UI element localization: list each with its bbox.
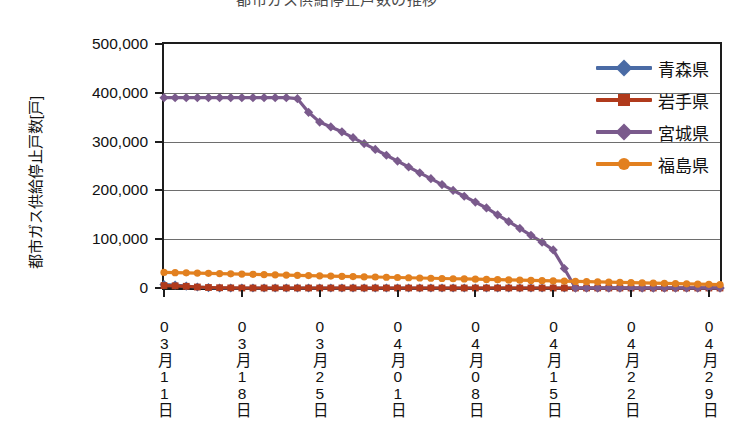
data-point-marker (483, 276, 490, 283)
data-point-marker (237, 93, 246, 102)
y-axis-labels: 0100,000200,000300,000400,000500,000 (0, 0, 162, 340)
gridline (164, 190, 720, 191)
data-point-marker (361, 273, 368, 280)
x-tick-label: 04月08日 (468, 318, 484, 418)
data-point-marker (516, 277, 523, 284)
data-point-marker (160, 269, 167, 276)
y-tick-mark (155, 92, 162, 94)
legend-item-青森県[interactable]: 青森県 (596, 52, 746, 84)
x-tick-mark (397, 290, 399, 297)
x-tick-label: 04月29日 (701, 318, 717, 418)
data-point-marker (283, 285, 290, 292)
data-point-marker (583, 278, 590, 285)
data-point-marker (259, 93, 268, 102)
x-tick-mark (630, 290, 632, 297)
data-point-marker (483, 285, 490, 292)
data-point-marker (205, 270, 212, 277)
data-point-marker (594, 278, 601, 285)
x-tick-label: 03月18日 (234, 318, 250, 418)
data-point-marker (172, 282, 179, 289)
data-point-marker (305, 272, 312, 279)
data-point-marker (283, 271, 290, 278)
data-point-marker (361, 285, 368, 292)
data-point-marker (705, 281, 712, 288)
circle-marker-icon (618, 158, 630, 170)
y-tick-mark (155, 43, 162, 45)
gridline (164, 239, 720, 240)
legend-key-swatch (596, 92, 652, 108)
data-point-marker (494, 276, 501, 283)
x-tick-mark (708, 290, 710, 297)
data-point-marker (183, 269, 190, 276)
data-point-marker (527, 277, 534, 284)
data-point-marker (215, 93, 224, 102)
data-point-marker (405, 285, 412, 292)
data-point-marker (271, 93, 280, 102)
data-point-marker (294, 285, 301, 292)
data-point-marker (661, 280, 668, 287)
legend: 青森県岩手県宮城県福島県 (596, 52, 746, 180)
data-point-marker (171, 93, 180, 102)
data-point-marker (461, 275, 468, 282)
square-marker-icon (618, 94, 630, 106)
legend-item-宮城県[interactable]: 宮城県 (596, 116, 746, 148)
data-point-marker (561, 278, 568, 285)
data-point-marker (427, 275, 434, 282)
data-point-marker (716, 281, 723, 288)
data-point-marker (183, 283, 190, 290)
data-point-marker (204, 93, 213, 102)
data-point-marker (505, 276, 512, 283)
legend-item-福島県[interactable]: 福島県 (596, 148, 746, 180)
data-point-marker (383, 274, 390, 281)
data-point-marker (538, 277, 545, 284)
data-point-marker (216, 284, 223, 291)
x-tick-label: 04月22日 (623, 318, 639, 418)
y-tick-label: 100,000 (92, 230, 148, 248)
data-point-marker (226, 93, 235, 102)
data-point-marker (639, 279, 646, 286)
data-point-marker (205, 284, 212, 291)
x-tick-mark (552, 290, 554, 297)
data-point-marker (416, 285, 423, 292)
data-point-marker (227, 270, 234, 277)
data-point-marker (405, 274, 412, 281)
chart-figure: 都市ガス供給停止戸数の推移 都市ガス供給停止戸数[戸] 0100,000200,… (0, 0, 754, 448)
legend-item-岩手県[interactable]: 岩手県 (596, 84, 746, 116)
y-tick-label: 300,000 (92, 133, 148, 151)
legend-key-swatch (596, 60, 652, 76)
data-point-marker (394, 274, 401, 281)
data-point-marker (338, 273, 345, 280)
data-point-marker (461, 285, 468, 292)
data-point-marker (627, 279, 634, 286)
data-point-marker (516, 285, 523, 292)
data-point-marker (450, 285, 457, 292)
data-point-marker (572, 278, 579, 285)
x-tick-label: 04月01日 (390, 318, 406, 418)
data-point-marker (528, 285, 535, 292)
data-point-marker (260, 271, 267, 278)
y-tick-mark (155, 189, 162, 191)
y-tick-label: 400,000 (92, 84, 148, 102)
data-point-marker (327, 285, 334, 292)
diamond-marker-icon (616, 60, 633, 77)
data-point-marker (294, 272, 301, 279)
data-point-marker (272, 271, 279, 278)
data-point-marker (238, 270, 245, 277)
data-point-marker (383, 285, 390, 292)
data-point-marker (272, 285, 279, 292)
data-point-marker (372, 273, 379, 280)
figure-title-clipped: 都市ガス供給停止戸数の推移 (236, 0, 438, 9)
legend-item-label: 宮城県 (658, 120, 709, 145)
data-point-marker (694, 280, 701, 287)
data-point-marker (227, 285, 234, 292)
x-tick-mark (163, 290, 165, 297)
data-point-marker (161, 282, 168, 289)
data-point-marker (683, 280, 690, 287)
data-point-marker (350, 285, 357, 292)
data-point-marker (261, 285, 268, 292)
data-point-marker (216, 270, 223, 277)
data-point-marker (427, 285, 434, 292)
data-point-marker (182, 93, 191, 102)
legend-item-label: 岩手県 (658, 88, 709, 113)
diamond-marker-icon (616, 124, 633, 141)
